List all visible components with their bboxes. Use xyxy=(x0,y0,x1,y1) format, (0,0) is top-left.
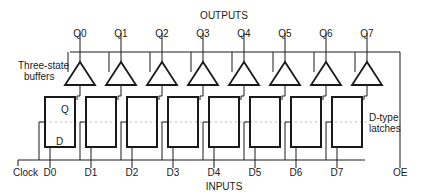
input-label-5: D5 xyxy=(249,167,262,178)
clock-bus xyxy=(18,160,365,166)
latches-label-1: D-type xyxy=(369,112,399,123)
octal-latch-diagram: OUTPUTS INPUTS Three-state buffers D-typ… xyxy=(0,0,422,193)
q-connection xyxy=(241,85,244,100)
buffer-triangle-icon xyxy=(311,62,341,85)
output-label-0: Q0 xyxy=(73,28,87,39)
buffers-label-2: buffers xyxy=(24,71,54,82)
outputs-title: OUTPUTS xyxy=(200,10,248,21)
q-connection xyxy=(118,85,121,100)
d-latch-box xyxy=(168,97,198,147)
input-label-4: D4 xyxy=(208,167,221,178)
oe-label: OE xyxy=(393,167,408,178)
output-label-3: Q3 xyxy=(196,28,210,39)
inputs-title: INPUTS xyxy=(206,181,243,192)
q-connection xyxy=(200,85,203,100)
stage-7 xyxy=(326,33,382,168)
output-label-1: Q1 xyxy=(114,28,128,39)
buffer-triangle-icon xyxy=(229,62,259,85)
q-connection xyxy=(282,85,285,100)
buffer-triangle-icon xyxy=(270,62,300,85)
latch-d-label: D xyxy=(56,136,63,147)
buffer-triangle-icon xyxy=(188,62,218,85)
buffer-triangle-icon xyxy=(106,62,136,85)
input-label-2: D2 xyxy=(126,167,139,178)
d-latch-box xyxy=(209,97,239,147)
output-label-2: Q2 xyxy=(155,28,169,39)
buffer-triangle-icon xyxy=(352,62,382,85)
q-connection xyxy=(364,85,367,100)
buffer-triangle-icon xyxy=(65,62,95,85)
q-connection xyxy=(323,85,326,100)
oe-enable-bus xyxy=(70,52,400,168)
output-label-6: Q6 xyxy=(319,28,333,39)
input-label-7: D7 xyxy=(331,167,344,178)
output-label-7: Q7 xyxy=(360,28,374,39)
output-label-4: Q4 xyxy=(237,28,251,39)
input-label-3: D3 xyxy=(167,167,180,178)
buffer-triangle-icon xyxy=(147,62,177,85)
latches-label-2: latches xyxy=(369,123,401,134)
q-connection xyxy=(159,85,162,100)
output-label-5: Q5 xyxy=(278,28,292,39)
q-connection xyxy=(77,85,80,100)
latch-q-label: Q xyxy=(61,104,69,115)
clock-label: Clock xyxy=(13,167,39,178)
input-label-6: D6 xyxy=(290,167,303,178)
input-label-0: D0 xyxy=(44,167,57,178)
input-label-1: D1 xyxy=(85,167,98,178)
buffers-label-1: Three-state xyxy=(18,60,70,71)
